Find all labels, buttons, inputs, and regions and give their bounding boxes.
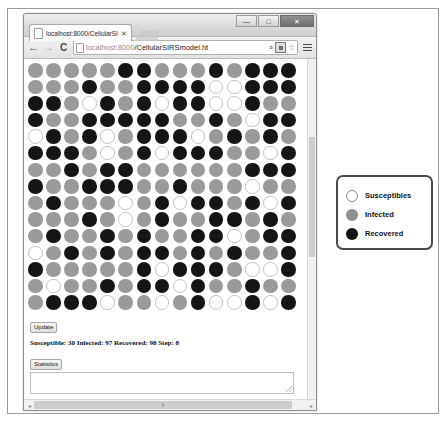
- grid-cell[interactable]: [82, 146, 97, 161]
- grid-cell[interactable]: [82, 63, 97, 78]
- grid-cell[interactable]: [281, 80, 296, 95]
- grid-cell[interactable]: [155, 262, 170, 277]
- textarea-resize-handle[interactable]: [286, 386, 292, 392]
- grid-cell[interactable]: [64, 246, 79, 261]
- grid-cell[interactable]: [173, 212, 188, 227]
- grid-cell[interactable]: [281, 196, 296, 211]
- grid-cell[interactable]: [209, 129, 224, 144]
- grid-cell[interactable]: [100, 246, 115, 261]
- grid-cell[interactable]: [100, 229, 115, 244]
- grid-cell[interactable]: [281, 229, 296, 244]
- grid-cell[interactable]: [118, 63, 133, 78]
- grid-cell[interactable]: [281, 113, 296, 128]
- grid-cell[interactable]: [263, 279, 278, 294]
- grid-cell[interactable]: [245, 96, 260, 111]
- grid-cell[interactable]: [191, 196, 206, 211]
- grid-cell[interactable]: [46, 229, 61, 244]
- grid-cell[interactable]: [137, 163, 152, 178]
- grid-cell[interactable]: [64, 229, 79, 244]
- grid-cell[interactable]: [137, 113, 152, 128]
- grid-cell[interactable]: [100, 163, 115, 178]
- grid-cell[interactable]: [191, 163, 206, 178]
- grid-cell[interactable]: [173, 179, 188, 194]
- scroll-left-icon[interactable]: ◂: [24, 400, 34, 410]
- grid-cell[interactable]: [263, 113, 278, 128]
- grid-cell[interactable]: [118, 279, 133, 294]
- grid-cell[interactable]: [155, 229, 170, 244]
- grid-cell[interactable]: [100, 262, 115, 277]
- grid-cell[interactable]: [28, 146, 43, 161]
- grid-cell[interactable]: [28, 229, 43, 244]
- grid-cell[interactable]: [100, 63, 115, 78]
- grid-cell[interactable]: [46, 129, 61, 144]
- grid-cell[interactable]: [137, 229, 152, 244]
- update-button[interactable]: Update: [30, 322, 57, 333]
- grid-cell[interactable]: [64, 146, 79, 161]
- grid-cell[interactable]: [118, 262, 133, 277]
- grid-cell[interactable]: [173, 196, 188, 211]
- window-titlebar[interactable]: localhost:8000/CellularSI ✕ — □ ✕: [24, 14, 316, 36]
- grid-cell[interactable]: [209, 146, 224, 161]
- grid-cell[interactable]: [64, 179, 79, 194]
- grid-cell[interactable]: [245, 163, 260, 178]
- grid-cell[interactable]: [245, 246, 260, 261]
- grid-cell[interactable]: [245, 212, 260, 227]
- grid-cell[interactable]: [82, 229, 97, 244]
- grid-cell[interactable]: [191, 96, 206, 111]
- grid-cell[interactable]: [263, 96, 278, 111]
- grid-cell[interactable]: [263, 212, 278, 227]
- grid-cell[interactable]: [227, 80, 242, 95]
- grid-cell[interactable]: [263, 295, 278, 310]
- grid-cell[interactable]: [227, 279, 242, 294]
- grid-cell[interactable]: [173, 163, 188, 178]
- grid-cell[interactable]: [64, 163, 79, 178]
- grid-cell[interactable]: [46, 279, 61, 294]
- grid-cell[interactable]: [137, 262, 152, 277]
- grid-cell[interactable]: [64, 113, 79, 128]
- grid-cell[interactable]: [209, 262, 224, 277]
- grid-cell[interactable]: [46, 246, 61, 261]
- grid-cell[interactable]: [227, 96, 242, 111]
- grid-cell[interactable]: [118, 295, 133, 310]
- grid-cell[interactable]: [245, 113, 260, 128]
- grid-cell[interactable]: [64, 96, 79, 111]
- grid-cell[interactable]: [173, 279, 188, 294]
- grid-cell[interactable]: [209, 113, 224, 128]
- grid-cell[interactable]: [191, 146, 206, 161]
- bookmark-star-icon[interactable]: ☆: [288, 44, 295, 52]
- close-tab-icon[interactable]: ✕: [121, 30, 127, 37]
- grid-cell[interactable]: [155, 212, 170, 227]
- forward-icon[interactable]: →: [43, 42, 54, 53]
- grid-cell[interactable]: [227, 179, 242, 194]
- grid-cell[interactable]: [46, 63, 61, 78]
- grid-cell[interactable]: [263, 262, 278, 277]
- grid-cell[interactable]: [82, 262, 97, 277]
- grid-cell[interactable]: [155, 246, 170, 261]
- grid-cell[interactable]: [46, 295, 61, 310]
- grid-cell[interactable]: [209, 279, 224, 294]
- grid-cell[interactable]: [137, 80, 152, 95]
- grid-cell[interactable]: [28, 129, 43, 144]
- grid-cell[interactable]: [155, 129, 170, 144]
- grid-cell[interactable]: [28, 262, 43, 277]
- grid-cell[interactable]: [245, 179, 260, 194]
- grid-cell[interactable]: [137, 179, 152, 194]
- grid-cell[interactable]: [173, 96, 188, 111]
- grid-cell[interactable]: [281, 96, 296, 111]
- grid-cell[interactable]: [191, 212, 206, 227]
- grid-cell[interactable]: [137, 63, 152, 78]
- grid-cell[interactable]: [64, 196, 79, 211]
- grid-cell[interactable]: [100, 212, 115, 227]
- grid-cell[interactable]: [227, 63, 242, 78]
- grid-cell[interactable]: [191, 246, 206, 261]
- grid-cell[interactable]: [155, 179, 170, 194]
- grid-cell[interactable]: [245, 295, 260, 310]
- grid-cell[interactable]: [137, 96, 152, 111]
- grid-cell[interactable]: [191, 113, 206, 128]
- grid-cell[interactable]: [209, 295, 224, 310]
- grid-cell[interactable]: [28, 113, 43, 128]
- grid-cell[interactable]: [28, 212, 43, 227]
- grid-cell[interactable]: [46, 262, 61, 277]
- grid-cell[interactable]: [155, 63, 170, 78]
- browser-tab[interactable]: localhost:8000/CellularSI ✕: [29, 24, 132, 41]
